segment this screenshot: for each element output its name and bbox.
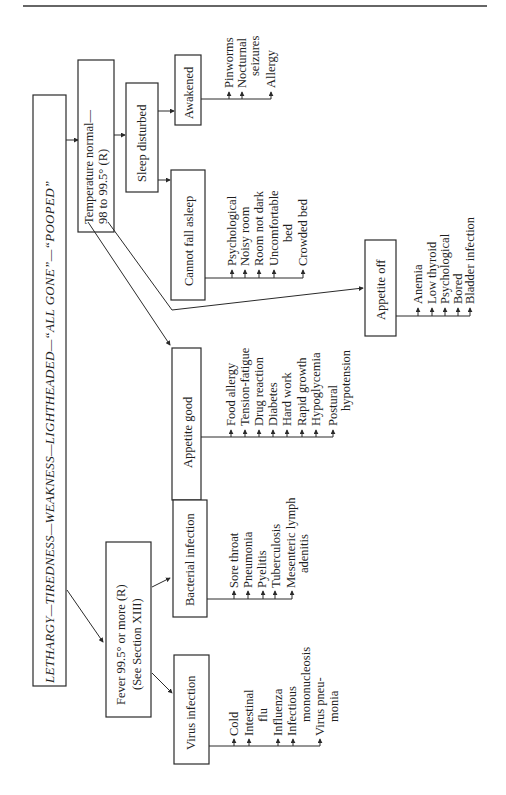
virus-item: flu (256, 707, 270, 722)
root-label: LETHARGY—TIREDNESS—WEAKNESS—LIGHTHEADED—… (42, 181, 57, 684)
connector-fever-virus (152, 673, 172, 693)
bacterial-item: adenitis (297, 534, 311, 573)
virus-item: Cold (227, 711, 241, 736)
appetite-off-item: Low thyroid (425, 241, 439, 304)
sleep-disturbed-box: Sleep disturbed (126, 83, 158, 192)
virus-infection-label: Virus infection (184, 675, 198, 750)
fever-box: Fever 99.5° or more (R) (See Section XII… (106, 542, 151, 717)
connector-root-fever (67, 590, 103, 642)
appetite-good-item: Hypoglycemia (309, 352, 323, 426)
virus-item: Virus pneu- (313, 677, 327, 736)
virus-item: monia (327, 690, 341, 722)
bacterial-item: Mesenteric lymph (284, 497, 298, 588)
appetite-good-item: Hard work (280, 371, 294, 426)
cannot-fall-asleep-label: Cannot fall asleep (182, 196, 196, 286)
appetite-off-box: Appetite off (365, 240, 396, 336)
awakened-item: Nocturnal (235, 37, 249, 88)
fever-line1: Fever 99.5° or more (R) (114, 584, 128, 705)
temperature-normal-box: Temperature normal— 98 to 99.5° (R) (78, 60, 114, 232)
sleep-disturbed-label: Sleep disturbed (135, 104, 149, 182)
temperature-normal-line2: 98 to 99.5° (R) (96, 149, 110, 224)
virus-item: Infectious (285, 686, 299, 736)
appetite-good-item: Rapid growth (295, 357, 309, 426)
appetite-off-label: Appetite off (374, 259, 388, 320)
bacterial-infection-label: Bacterial infection (183, 513, 197, 606)
virus-infection-items: Cold Intestinal flu Influenza Infectious… (209, 647, 341, 746)
appetite-off-item: Bladder infection (463, 216, 477, 304)
flowchart: LETHARGY—TIREDNESS—WEAKNESS—LIGHTHEADED—… (0, 0, 506, 795)
appetite-good-item: Drug reaction (252, 356, 266, 426)
bacterial-item: Sore throat (227, 532, 241, 588)
appetite-good-item: Tension-fatigue (238, 347, 252, 426)
awakened-items: Pinworms Nocturnal seizures Allergy (201, 36, 278, 99)
appetite-good-label: Appetite good (181, 396, 195, 468)
bacterial-infection-box: Bacterial infection (173, 500, 207, 617)
connector-fever-bacterial (152, 578, 170, 587)
bacterial-item: Pyelitis (255, 550, 269, 588)
cannot-fall-asleep-item: Uncomfortable (267, 190, 281, 266)
connector-temp-appetite-good (88, 222, 170, 345)
appetite-off-item: Psychological (438, 233, 452, 304)
appetite-good-item: hypotension (339, 349, 353, 411)
bacterial-item: Tuberculosis (269, 524, 283, 588)
awakened-item: Pinworms (222, 37, 236, 88)
bacterial-item: Pneumonia (241, 531, 255, 588)
cannot-fall-asleep-items: Psychological Noisy room Room not dark U… (205, 190, 310, 278)
cannot-fall-asleep-item: bed (281, 223, 295, 242)
appetite-off-item: Anemia (411, 264, 425, 304)
virus-item: mononucleosis (299, 647, 313, 722)
cannot-fall-asleep-item: Psychological (225, 195, 239, 266)
temperature-normal-line1: Temperature normal— (82, 109, 96, 224)
root-box: LETHARGY—TIREDNESS—WEAKNESS—LIGHTHEADED—… (33, 95, 66, 686)
cannot-fall-asleep-item: Crowded bed (296, 198, 310, 266)
appetite-off-items: Anemia Low thyroid Psychological Bored B… (396, 216, 477, 316)
cannot-fall-asleep-item: Room not dark (252, 190, 266, 266)
appetite-good-item: Food allergy (224, 362, 238, 426)
bacterial-infection-items: Sore throat Pneumonia Pyelitis Tuberculo… (207, 497, 311, 599)
awakened-box: Awakened (175, 55, 201, 125)
virus-item: Influenza (271, 688, 285, 736)
virus-infection-box: Virus infection (174, 655, 209, 764)
cannot-fall-asleep-box: Cannot fall asleep (171, 170, 205, 300)
appetite-good-box: Appetite good (172, 348, 201, 500)
virus-item: Intestinal (242, 689, 256, 736)
awakened-item: Allergy (264, 49, 278, 88)
appetite-good-items: Food allergy Tension-fatigue Drug reacti… (201, 347, 353, 437)
fever-line2: (See Section XIII) (130, 598, 144, 690)
awakened-label: Awakened (182, 66, 196, 119)
cannot-fall-asleep-item: Noisy room (238, 206, 252, 266)
appetite-good-item: Diabetes (266, 382, 280, 426)
appetite-good-item: Postural (326, 385, 340, 427)
awakened-item: seizures (248, 36, 262, 76)
